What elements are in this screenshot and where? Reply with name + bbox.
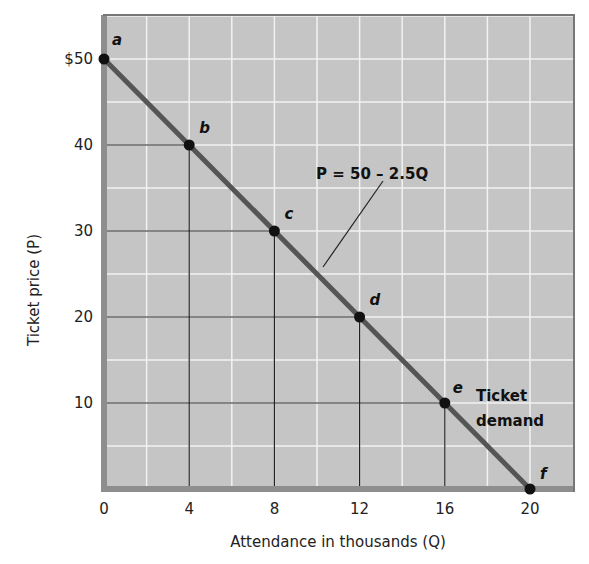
y-tick-label: $50 — [64, 50, 93, 68]
data-point-b — [184, 140, 195, 151]
demand-label-line2: demand — [476, 412, 544, 430]
demand-chart: abcdef 048121620 10203040$50 P = 50 – 2.… — [0, 0, 589, 564]
y-axis-band — [101, 15, 107, 492]
x-tick-label: 0 — [99, 500, 109, 518]
data-point-f — [525, 484, 536, 495]
x-tick-label: 12 — [350, 500, 369, 518]
x-axis-band — [101, 486, 575, 492]
point-label-c: c — [284, 205, 293, 223]
y-tick-label: 10 — [74, 394, 93, 412]
x-tick-label: 8 — [270, 500, 280, 518]
x-tick-label: 16 — [435, 500, 454, 518]
equation-label: P = 50 – 2.5Q — [316, 165, 428, 183]
x-tick-labels: 048121620 — [99, 500, 539, 518]
x-tick-label: 4 — [184, 500, 194, 518]
data-point-a — [99, 54, 110, 65]
plot-right-border — [573, 14, 575, 492]
x-axis-title: Attendance in thousands (Q) — [230, 533, 446, 551]
y-axis-title: Ticket price (P) — [25, 234, 43, 347]
y-tick-label: 20 — [74, 308, 93, 326]
y-tick-labels: 10203040$50 — [64, 50, 93, 412]
point-label-d: d — [370, 291, 381, 309]
data-point-c — [269, 226, 280, 237]
data-point-e — [439, 398, 450, 409]
data-point-d — [354, 312, 365, 323]
x-tick-label: 20 — [520, 500, 539, 518]
point-label-a: a — [112, 31, 122, 49]
point-label-e: e — [453, 379, 463, 397]
y-tick-label: 40 — [74, 136, 93, 154]
plot-top-border — [103, 14, 575, 16]
y-tick-label: 30 — [74, 222, 93, 240]
point-label-b: b — [199, 119, 210, 137]
demand-label-line1: Ticket — [476, 387, 527, 405]
